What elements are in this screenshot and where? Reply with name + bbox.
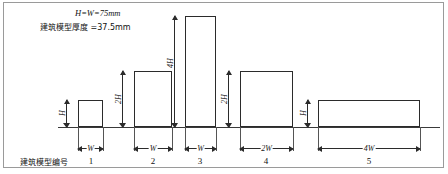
width-dimension-label-4: 2W <box>260 144 273 153</box>
height-dimension-label-3: 4H <box>166 58 175 68</box>
height-dimension-3 <box>174 16 175 127</box>
width-dimension-label-2: W <box>149 144 158 153</box>
width-dimension-label-5: 4W <box>363 144 376 153</box>
width-dimension-label-3: W <box>196 144 205 153</box>
arrow-left-icon <box>317 146 322 152</box>
arrow-up-icon <box>64 99 70 104</box>
arrow-left-icon <box>133 146 138 152</box>
width-dimension-label-1: W <box>86 144 95 153</box>
building-model-2 <box>134 71 172 127</box>
arrow-right-icon <box>168 146 173 152</box>
building-model-5 <box>318 100 420 127</box>
row-label-model-number: 建筑模型编号 <box>20 156 68 167</box>
height-dimension-label-2: 2H <box>114 94 123 104</box>
arrow-right-icon <box>289 146 294 152</box>
height-dimension-label-4: 2H <box>220 94 229 104</box>
baseline-tick-icon <box>225 123 231 127</box>
building-model-1 <box>78 100 103 127</box>
baseline-tick-icon <box>304 123 310 127</box>
note-dimension-equality-text: H=W=75mm <box>75 8 120 18</box>
height-dimension-label-5: H <box>299 110 308 116</box>
height-dimension-label-1: H <box>58 110 67 116</box>
arrow-right-icon <box>212 146 217 152</box>
arrow-left-icon <box>184 146 189 152</box>
figure-canvas: H=W=75mm 建筑模型厚度 =37.5mm H 2H 4H 2H H <box>0 0 448 174</box>
arrow-up-icon <box>305 99 311 104</box>
model-number-2: 2 <box>151 156 156 166</box>
note-model-thickness: 建筑模型厚度 =37.5mm <box>40 21 131 32</box>
arrow-right-icon <box>416 146 421 152</box>
arrow-up-icon <box>226 70 232 75</box>
baseline-tick-icon <box>119 123 125 127</box>
arrow-left-icon <box>239 146 244 152</box>
model-number-5: 5 <box>367 156 372 166</box>
ground-baseline <box>58 127 440 128</box>
arrow-up-icon <box>120 70 126 75</box>
model-number-4: 4 <box>264 156 269 166</box>
model-number-3: 3 <box>198 156 203 166</box>
note-model-thickness-text: 建筑模型厚度 =37.5mm <box>40 23 131 32</box>
building-model-4 <box>240 71 293 127</box>
building-model-3 <box>185 16 216 127</box>
baseline-tick-icon <box>63 123 69 127</box>
model-number-1: 1 <box>89 156 94 166</box>
arrow-left-icon <box>77 146 82 152</box>
arrow-right-icon <box>99 146 104 152</box>
note-dimension-equality: H=W=75mm <box>75 8 120 18</box>
arrow-up-icon <box>172 15 178 20</box>
